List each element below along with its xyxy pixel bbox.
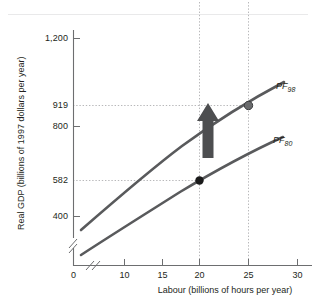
point-pf98-marker xyxy=(244,101,252,109)
x-tick-label-15: 15 xyxy=(150,270,175,280)
x-tick-label-10: 10 xyxy=(112,270,137,280)
x-tick-label-25: 25 xyxy=(236,270,261,280)
x-tick-label-30: 30 xyxy=(285,270,310,280)
x-tick-marks xyxy=(125,259,298,266)
curve-label-pf80-text: PF xyxy=(273,135,285,145)
curve-label-pf98-text: PF xyxy=(276,81,288,91)
chart-canvas xyxy=(0,0,316,303)
chart-figure: 1,200 919 800 582 400 0 10 15 20 25 30 R… xyxy=(0,0,316,303)
y-axis-title: Real GDP (billions of 1997 dollars per y… xyxy=(16,60,26,230)
curve-label-pf80-subscript: 80 xyxy=(285,140,293,147)
y-tick-marks xyxy=(74,39,81,217)
y-tick-label-1200: 1,200 xyxy=(14,33,68,43)
shift-arrow-icon xyxy=(197,103,219,158)
curve-label-pf80: PF80 xyxy=(273,135,292,147)
curve-pf80 xyxy=(81,137,283,255)
x-tick-label-20: 20 xyxy=(187,270,212,280)
curve-pf98 xyxy=(81,82,284,230)
curve-label-pf98: PF98 xyxy=(276,81,295,93)
curve-label-pf98-subscript: 98 xyxy=(288,86,296,93)
x-tick-label-0: 0 xyxy=(61,270,86,280)
point-pf80-marker xyxy=(195,176,203,184)
x-axis-title: Labour (billions of hours per year) xyxy=(139,285,311,295)
